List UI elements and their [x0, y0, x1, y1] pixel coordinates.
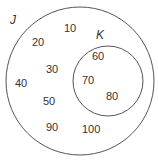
element-100: 100 — [82, 124, 100, 135]
element-50: 50 — [43, 96, 55, 107]
set-j-circle — [6, 7, 154, 155]
element-90: 90 — [46, 122, 58, 133]
set-k-label: K — [96, 29, 104, 41]
element-20: 20 — [32, 37, 44, 48]
element-10: 10 — [64, 23, 76, 34]
element-80: 80 — [106, 91, 118, 102]
element-30: 30 — [46, 64, 58, 75]
venn-diagram: J K 10 20 30 40 50 90 100 60 70 80 — [0, 0, 158, 161]
element-60: 60 — [92, 51, 104, 62]
element-70: 70 — [82, 75, 94, 86]
element-40: 40 — [15, 78, 27, 89]
set-j-label: J — [10, 14, 16, 26]
